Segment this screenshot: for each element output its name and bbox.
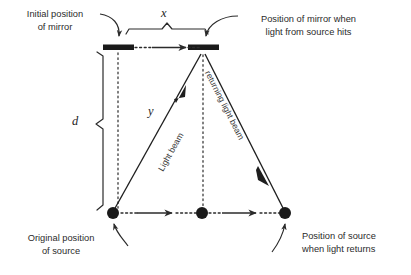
callout-initial-mirror-position: Initial position of mirror bbox=[14, 8, 96, 33]
returning-light-beam-icon bbox=[205, 54, 284, 210]
callout-source-position-when-returns: Position of source when light returns bbox=[302, 230, 407, 255]
brace-d-icon bbox=[96, 52, 103, 210]
variable-label-y: y bbox=[148, 104, 154, 119]
light-clock-diagram: Initial position of mirror Position of m… bbox=[0, 0, 411, 275]
dotted-guide-line-icon bbox=[118, 53, 203, 208]
callout-original-source-line1: Original position bbox=[8, 232, 114, 245]
variable-label-x: x bbox=[161, 6, 167, 21]
brace-x-icon bbox=[126, 23, 208, 34]
callout-source-when-returns-line1: Position of source bbox=[302, 230, 407, 243]
callout-initial-mirror-line2: of mirror bbox=[14, 21, 96, 34]
callout-initial-mirror-line1: Initial position bbox=[14, 8, 96, 21]
callout-mirror-when-hit-line2: light from source hits bbox=[236, 26, 381, 39]
callout-source-when-returns-line2: when light returns bbox=[302, 243, 407, 256]
variable-label-d: d bbox=[72, 114, 78, 129]
callout-original-source-line2: of source bbox=[8, 245, 114, 258]
outgoing-light-beam-icon bbox=[114, 54, 201, 210]
callout-mirror-when-hit-line1: Position of mirror when bbox=[236, 13, 381, 26]
callout-original-source-position: Original position of source bbox=[8, 232, 114, 257]
callout-mirror-position-when-hit: Position of mirror when light from sourc… bbox=[236, 13, 381, 38]
